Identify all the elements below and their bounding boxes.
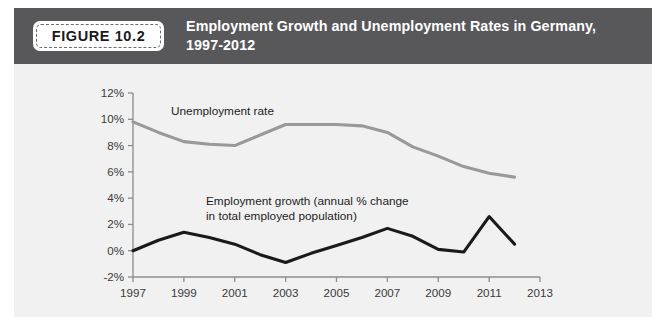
x-tick-label: 1997: [120, 286, 146, 299]
series-lines: [133, 122, 515, 263]
x-tick-label: 2005: [324, 286, 350, 299]
x-tick-label: 2009: [425, 286, 451, 299]
y-tick-label: 2%: [107, 217, 124, 230]
figure-body: -2%0%2%4%6%8%10%12% 19971999200120032005…: [14, 64, 652, 317]
x-tick-label: 2001: [222, 286, 248, 299]
y-tick-label: 10%: [101, 112, 124, 125]
x-tick-label: 2011: [477, 286, 502, 299]
y-tick-label: 8%: [107, 139, 124, 152]
y-tick-label: 4%: [107, 191, 124, 204]
y-tick-label: 12%: [101, 86, 124, 99]
series-line-unemployment-rate: [133, 122, 515, 177]
annotation-unemployment-rate: Unemployment rate: [171, 104, 274, 118]
y-tick-label: -2%: [103, 270, 124, 283]
chart-plot: -2%0%2%4%6%8%10%12% 19971999200120032005…: [14, 64, 652, 317]
y-tick-label: 6%: [107, 165, 124, 178]
series-line-employment-growth: [133, 217, 515, 263]
x-tick-label: 2003: [273, 286, 299, 299]
figure-container: FIGURE 10.2 Employment Growth and Unempl…: [0, 0, 661, 332]
annotation-employment-growth-line1: Employment growth (annual % change: [206, 194, 409, 208]
y-tick-label: 0%: [107, 244, 124, 257]
figure-number-badge: FIGURE 10.2: [33, 21, 164, 51]
y-axis: -2%0%2%4%6%8%10%12%: [101, 86, 133, 283]
figure-number-label: FIGURE 10.2: [52, 28, 146, 44]
annotation-employment-growth-line2: in total employed population): [206, 209, 357, 223]
x-tick-label: 1999: [171, 286, 197, 299]
figure-title: Employment Growth and Unemployment Rates…: [186, 17, 631, 54]
x-axis: 199719992001200320052007200920112013: [120, 277, 553, 299]
x-tick-label: 2013: [527, 286, 553, 299]
figure-header: FIGURE 10.2 Employment Growth and Unempl…: [14, 8, 652, 64]
x-tick-label: 2007: [374, 286, 400, 299]
